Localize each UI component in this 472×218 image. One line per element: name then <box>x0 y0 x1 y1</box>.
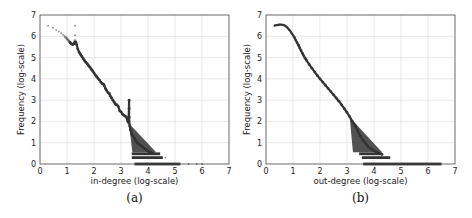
panel-b-x-tick-label: 7 <box>452 167 457 176</box>
panel-a-y-tick-label: 2 <box>31 117 36 126</box>
panel-b-floor-band <box>359 152 382 155</box>
panel-a-x-tick-label: 1 <box>64 167 69 176</box>
panel-b-out-degree: 01234567 01234567 out-degree (log-scale)… <box>242 11 458 205</box>
panel-a-y-tick-label: 1 <box>31 139 36 148</box>
panel-a-outlier-point <box>165 157 167 159</box>
panel-a-floor-band <box>132 156 163 159</box>
panel-a-point <box>58 31 60 33</box>
panel-a-in-degree: 01234567 01234567 in-degree (log-scale) … <box>16 11 232 205</box>
panel-a-point <box>60 32 62 34</box>
panel-a-x-ticks: 01234567 <box>37 167 231 176</box>
panel-a-caption: (a) <box>126 191 143 205</box>
panel-b-caption: (b) <box>352 191 369 205</box>
panel-b-x-tick-label: 4 <box>371 167 376 176</box>
panel-b-x-axis-label: out-degree (log-scale) <box>313 176 407 186</box>
panel-b-y-tick-label: 0 <box>257 160 262 169</box>
panel-a-x-tick-label: 0 <box>37 167 42 176</box>
panel-a-points <box>47 25 203 166</box>
panel-a-x-tick-label: 3 <box>118 167 123 176</box>
panel-b-y-axis-label: Frequency (log-scale) <box>242 44 252 135</box>
panel-b-floor-band <box>362 156 390 159</box>
panel-b-tail-noise <box>350 117 382 152</box>
panel-b-y-tick-label: 5 <box>257 54 262 63</box>
panel-b-y-tick-label: 4 <box>257 75 262 84</box>
panel-b-x-tick-label: 3 <box>344 167 349 176</box>
panel-a-point <box>47 25 49 27</box>
panel-b-y-tick-label: 1 <box>257 139 262 148</box>
panel-a-y-tick-label: 0 <box>31 160 36 169</box>
panel-b-x-tick-label: 0 <box>263 167 268 176</box>
panel-b-y-tick-label: 6 <box>257 32 262 41</box>
panel-a-floor-band <box>132 152 160 155</box>
panel-a-point <box>62 34 64 36</box>
panel-a-y-tick-label: 6 <box>31 32 36 41</box>
panel-a-y-axis-label: Frequency (log-scale) <box>16 44 26 135</box>
panel-b-y-tick-label: 3 <box>257 96 262 105</box>
panel-b-x-ticks: 01234567 <box>263 167 457 176</box>
panel-a-point <box>74 34 76 36</box>
panel-b-x-tick-label: 1 <box>290 167 295 176</box>
panel-a-y-tick-label: 4 <box>31 75 36 84</box>
panel-b-y-tick-label: 2 <box>257 117 262 126</box>
panel-a-point <box>74 25 76 27</box>
panel-a-y-tick-label: 7 <box>31 11 36 20</box>
panel-a-x-tick-label: 5 <box>172 167 177 176</box>
panel-b-x-tick-label: 2 <box>317 167 322 176</box>
panel-b-x-tick-label: 5 <box>398 167 403 176</box>
panel-a-y-tick-label: 5 <box>31 54 36 63</box>
figure: 01234567 01234567 in-degree (log-scale) … <box>0 0 472 218</box>
panel-b-y-tick-label: 7 <box>257 11 262 20</box>
panel-a-x-tick-label: 2 <box>91 167 96 176</box>
panel-a-x-tick-label: 6 <box>199 167 204 176</box>
panel-b-x-tick-label: 6 <box>425 167 430 176</box>
panel-b-points <box>273 24 441 166</box>
panel-a-x-axis-label: in-degree (log-scale) <box>91 176 179 186</box>
panel-a-y-tick-label: 3 <box>31 96 36 105</box>
panel-a-y-ticks: 01234567 <box>31 11 36 169</box>
panel-a-x-tick-label: 7 <box>226 167 231 176</box>
panel-a-point <box>55 29 57 31</box>
panel-a-x-tick-label: 4 <box>145 167 150 176</box>
panel-a-point <box>52 27 54 29</box>
panel-a-tail-noise <box>129 124 156 153</box>
panel-b-y-ticks: 01234567 <box>257 11 262 169</box>
